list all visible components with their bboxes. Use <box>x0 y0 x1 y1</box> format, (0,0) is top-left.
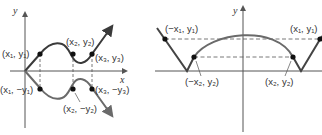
pointer-x2-neg-y2 <box>75 93 80 102</box>
label-x1-y1: (x₁, y₁) <box>2 48 30 59</box>
point-neg-x2-y2 <box>191 54 196 59</box>
point-x2-y2-right <box>290 54 295 59</box>
point-x1-y1 <box>37 51 42 56</box>
label-x2-y2: (x₂, y₂) <box>66 36 94 47</box>
point-x1-neg-y1 <box>37 86 42 91</box>
label-x1-neg-y1: (x₁, −y₁) <box>0 84 33 95</box>
label-neg-x2-y2: (−x₂, y₂) <box>185 76 219 87</box>
point-x3-neg-y3 <box>89 86 94 91</box>
label-x2-neg-y2: (x₂, −y₂) <box>63 103 97 114</box>
pointer-neg-x2-y2 <box>196 61 201 76</box>
label-x2-y2-right: (x₂, y₂) <box>265 76 293 87</box>
right-figure: y (−x₁, y₁) (x₁, y₁) (−x₂, y₂) (x₂, y₂) <box>155 5 322 132</box>
point-neg-x1-y1 <box>162 36 167 41</box>
label-x1-y1-right: (x₁, y₁) <box>290 23 318 34</box>
right-v-segment <box>293 36 322 71</box>
diagram-canvas: y x (x₁, y₁) (x₂, y₂) (x₃, y₃) (x₁, −y₁)… <box>0 0 322 135</box>
left-v-segment <box>157 28 194 71</box>
point-x2-neg-y2 <box>70 86 75 91</box>
point-x3-y3 <box>89 51 94 56</box>
pointer-x2-y2-right <box>285 61 291 76</box>
right-y-axis-label: y <box>232 5 238 16</box>
left-figure: y x (x₁, y₁) (x₂, y₂) (x₃, y₃) (x₁, −y₁)… <box>0 5 129 128</box>
label-x3-y3: (x₃, y₃) <box>95 52 124 63</box>
point-x2-y2 <box>70 51 75 56</box>
label-neg-x1-y1: (−x₁, y₁) <box>165 23 198 34</box>
label-x3-neg-y3: (x₃, −y₃) <box>95 84 129 95</box>
left-y-axis-label: y <box>12 5 18 16</box>
